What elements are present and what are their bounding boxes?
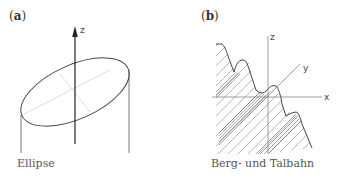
caption-ellipse: Ellipse bbox=[17, 157, 55, 170]
z-axis-arrowhead bbox=[72, 26, 78, 37]
z-axis-label: z bbox=[270, 32, 275, 42]
ellipse-major-axis-line bbox=[22, 70, 110, 115]
caption-roller-coaster: Berg- und Talbahn bbox=[211, 157, 314, 170]
z-axis-label: z bbox=[80, 25, 85, 35]
wave-crest-outline bbox=[216, 44, 312, 148]
y-axis-label: y bbox=[303, 63, 309, 73]
panel-ellipse: (a) z Ellipse bbox=[0, 0, 172, 178]
surface-hatch bbox=[202, 30, 337, 155]
x-axis-label: x bbox=[324, 92, 330, 102]
surface-diagram: x z y bbox=[172, 0, 343, 178]
ellipse-diagram: z bbox=[0, 0, 172, 178]
panel-roller-coaster: (b) bbox=[172, 0, 343, 178]
